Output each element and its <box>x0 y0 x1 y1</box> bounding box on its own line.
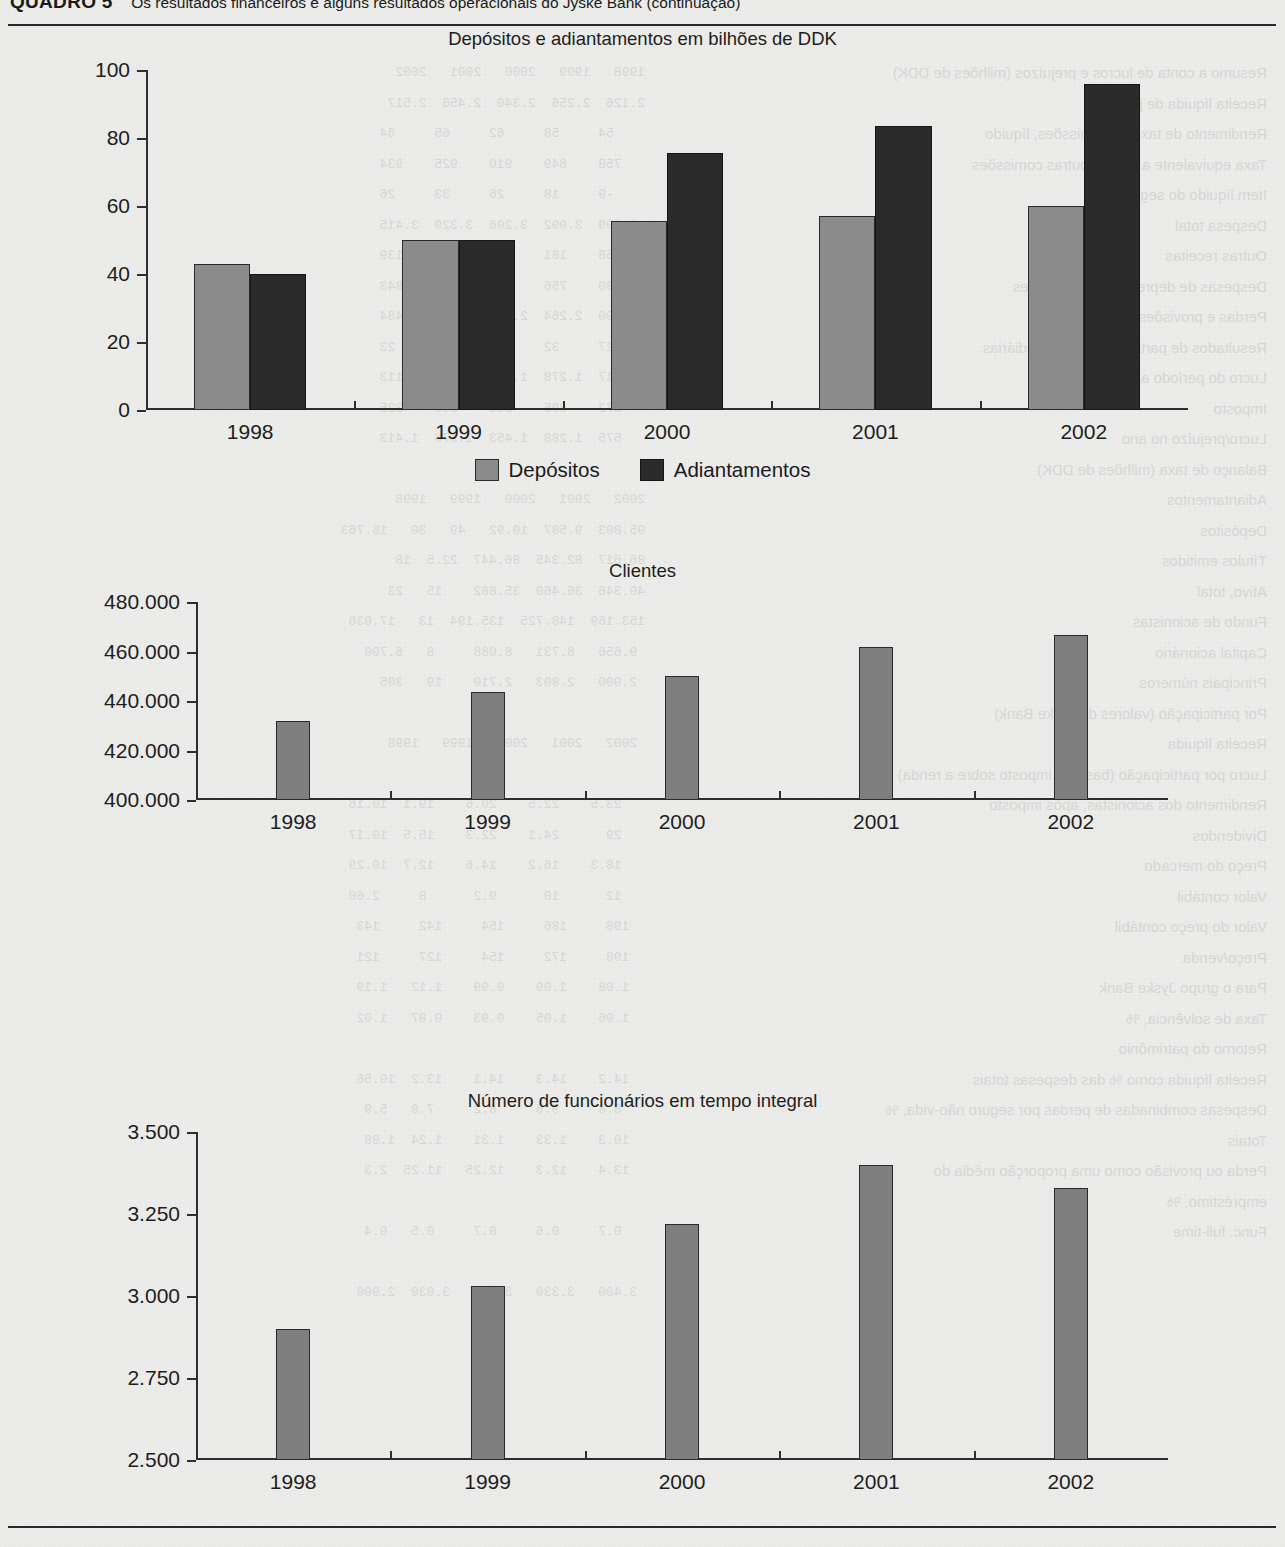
legend-label-depositos: Depósitos <box>509 458 600 482</box>
header-rule <box>8 24 1276 26</box>
y-axis-label: 480.000 <box>104 590 180 614</box>
y-axis-label: 3.000 <box>127 1284 180 1308</box>
x-axis-label: 2002 <box>1060 420 1107 444</box>
bar-adiantamentos-2002 <box>1084 84 1140 410</box>
y-axis-tick <box>187 800 196 802</box>
quadro-title: Os resultados financeiros e alguns resul… <box>131 0 740 11</box>
footer-rule <box>8 1526 1276 1528</box>
legend-item-adiantamentos: Adiantamentos <box>640 458 811 482</box>
legend-swatch-adiantamentos <box>640 459 664 481</box>
x-axis-label: 1998 <box>227 420 274 444</box>
bar-funcion-rios-2002 <box>1054 1188 1088 1460</box>
bar-dep-sitos-2000 <box>611 221 667 410</box>
bar-dep-sitos-1998 <box>194 264 250 410</box>
x-axis-tick <box>974 791 976 800</box>
y-axis-tick <box>187 602 196 604</box>
bar-adiantamentos-2000 <box>667 153 723 410</box>
x-axis-label: 1999 <box>435 420 482 444</box>
y-axis <box>146 70 148 410</box>
chart-legend: Depósitos Adiantamentos <box>0 458 1285 482</box>
bar-funcion-rios-2000 <box>665 1224 699 1460</box>
bar-clientes-1999 <box>471 692 505 800</box>
y-axis-label: 2.500 <box>127 1448 180 1472</box>
y-axis-tick <box>187 652 196 654</box>
x-axis-label: 2000 <box>644 420 691 444</box>
plot-area: 02040608010019981999200020012002 <box>146 70 1188 410</box>
y-axis-tick <box>187 751 196 753</box>
y-axis <box>196 1132 198 1460</box>
legend-item-depositos: Depósitos <box>475 458 600 482</box>
y-axis-label: 2.750 <box>127 1366 180 1390</box>
chart-title: Depósitos e adiantamentos em bilhões de … <box>0 28 1285 50</box>
y-axis-tick <box>137 410 146 412</box>
x-axis-label: 2000 <box>659 810 706 834</box>
bar-funcion-rios-2001 <box>859 1165 893 1460</box>
x-axis-tick <box>585 791 587 800</box>
x-axis-label: 2001 <box>853 1470 900 1494</box>
y-axis-tick <box>187 1132 196 1134</box>
plot-area: 2.5002.7503.0003.2503.500199819992000200… <box>196 1132 1168 1460</box>
x-axis-label: 1999 <box>464 1470 511 1494</box>
bar-clientes-1998 <box>276 721 310 800</box>
bar-clientes-2001 <box>859 647 893 800</box>
y-axis-label: 400.000 <box>104 788 180 812</box>
chart-clientes: Clientes 400.000420.000440.000460.000480… <box>0 560 1285 860</box>
bar-clientes-2002 <box>1054 635 1088 800</box>
y-axis-label: 3.250 <box>127 1202 180 1226</box>
chart-depositos-adiantamentos: Depósitos e adiantamentos em bilhões de … <box>0 28 1285 498</box>
x-axis-tick <box>563 401 565 410</box>
legend-swatch-depositos <box>475 459 499 481</box>
x-axis-tick <box>771 401 773 410</box>
y-axis-label: 460.000 <box>104 640 180 664</box>
x-axis-tick <box>585 1451 587 1460</box>
y-axis-tick <box>187 1378 196 1380</box>
y-axis-label: 60 <box>107 194 130 218</box>
x-axis-label: 1998 <box>270 1470 317 1494</box>
chart-title: Número de funcionários em tempo integral <box>0 1090 1285 1112</box>
legend-label-adiantamentos: Adiantamentos <box>674 458 811 482</box>
quadro-header: QUADRO 5 Os resultados financeiros e alg… <box>0 0 1285 26</box>
y-axis-label: 420.000 <box>104 739 180 763</box>
x-axis-tick <box>779 1451 781 1460</box>
plot-area: 400.000420.000440.000460.000480.00019981… <box>196 602 1168 800</box>
y-axis-tick <box>187 1214 196 1216</box>
y-axis-label: 80 <box>107 126 130 150</box>
x-axis-label: 2001 <box>853 810 900 834</box>
y-axis-tick <box>137 138 146 140</box>
y-axis-tick <box>187 1296 196 1298</box>
y-axis-tick <box>137 70 146 72</box>
y-axis-label: 0 <box>118 398 130 422</box>
x-axis-tick <box>779 791 781 800</box>
chart-title: Clientes <box>0 560 1285 582</box>
y-axis-label: 3.500 <box>127 1120 180 1144</box>
x-axis-tick <box>390 791 392 800</box>
x-axis-label: 1998 <box>270 810 317 834</box>
bar-funcion-rios-1998 <box>276 1329 310 1460</box>
x-axis-label: 2002 <box>1047 810 1094 834</box>
y-axis <box>196 602 198 800</box>
bar-adiantamentos-2001 <box>875 126 931 410</box>
x-axis-tick <box>390 1451 392 1460</box>
x-axis-label: 1999 <box>464 810 511 834</box>
x-axis-tick <box>980 401 982 410</box>
bar-adiantamentos-1998 <box>250 274 306 410</box>
quadro-label: QUADRO 5 <box>10 0 113 12</box>
y-axis-label: 100 <box>95 58 130 82</box>
x-axis-label: 2000 <box>659 1470 706 1494</box>
y-axis-tick <box>187 1460 196 1462</box>
y-axis-label: 20 <box>107 330 130 354</box>
bar-funcion-rios-1999 <box>471 1286 505 1460</box>
y-axis-label: 440.000 <box>104 689 180 713</box>
x-axis-label: 2001 <box>852 420 899 444</box>
y-axis-tick <box>187 701 196 703</box>
bar-dep-sitos-2002 <box>1028 206 1084 410</box>
y-axis-tick <box>137 342 146 344</box>
x-axis-label: 2002 <box>1047 1470 1094 1494</box>
bar-adiantamentos-1999 <box>459 240 515 410</box>
x-axis-tick <box>974 1451 976 1460</box>
bar-dep-sitos-2001 <box>819 216 875 410</box>
bar-clientes-2000 <box>665 676 699 800</box>
y-axis-tick <box>137 274 146 276</box>
bar-dep-sitos-1999 <box>402 240 458 410</box>
y-axis-label: 40 <box>107 262 130 286</box>
